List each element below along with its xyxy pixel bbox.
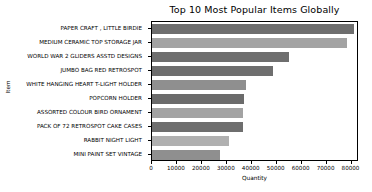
bar — [152, 122, 243, 133]
x-axis-tick-label: 50000 — [267, 165, 285, 171]
y-axis-tick-label: PACK OF 72 RETROSPOT CAKE CASES — [37, 119, 142, 133]
y-axis-tick-label: WHITE HANGING HEART T-LIGHT HOLDER — [26, 77, 142, 91]
x-axis-tick-label: 20000 — [192, 165, 210, 171]
x-axis-ticks: 0100002000030000400005000060000700008000… — [151, 161, 358, 187]
x-axis-tick-label: 60000 — [292, 165, 310, 171]
x-axis-tick-mark — [326, 161, 327, 164]
y-axis-tick-label: PAPER CRAFT , LITTLE BIRDIE — [61, 21, 142, 35]
x-axis-tick-label: 70000 — [317, 165, 335, 171]
y-axis-tick-label: RABBIT NIGHT LIGHT — [84, 133, 142, 147]
chart-figure: Top 10 Most Popular Items Globally Item … — [0, 0, 372, 192]
bar — [152, 38, 347, 49]
y-axis-tick-labels: PAPER CRAFT , LITTLE BIRDIEMEDIUM CERAMI… — [0, 21, 147, 161]
x-axis-tick-mark — [176, 161, 177, 164]
x-axis-tick-mark — [276, 161, 277, 164]
y-axis-tick-label: MINI PAINT SET VINTAGE — [74, 147, 142, 161]
x-axis-tick-label: 40000 — [242, 165, 260, 171]
y-axis-tick-label: POPCORN HOLDER — [89, 91, 142, 105]
y-axis-tick-label: ASSORTED COLOUR BIRD ORNAMENT — [37, 105, 142, 119]
bar — [152, 108, 243, 119]
x-axis-tick-label: 30000 — [217, 165, 235, 171]
bar — [152, 94, 244, 105]
bar — [152, 66, 273, 77]
x-axis-tick-mark — [201, 161, 202, 164]
x-axis-tick-mark — [251, 161, 252, 164]
bar — [152, 150, 220, 161]
y-axis-tick-label: JUMBO BAG RED RETROSPOT — [60, 63, 142, 77]
x-axis-tick-mark — [226, 161, 227, 164]
y-axis-tick-label: MEDIUM CERAMIC TOP STORAGE JAR — [39, 35, 142, 49]
x-axis-tick-mark — [301, 161, 302, 164]
bar — [152, 52, 289, 63]
bar — [152, 80, 246, 91]
x-axis-tick-mark — [351, 161, 352, 164]
x-axis-tick-label: 0 — [149, 165, 153, 171]
y-axis-tick-label: WORLD WAR 2 GLIDERS ASSTD DESIGNS — [27, 49, 142, 63]
chart-title: Top 10 Most Popular Items Globally — [151, 4, 358, 15]
bar-series — [152, 22, 357, 160]
plot-area — [151, 21, 358, 161]
x-axis-tick-label: 10000 — [167, 165, 185, 171]
bar — [152, 24, 354, 35]
bar — [152, 136, 229, 147]
x-axis-label: Quantity — [151, 175, 358, 181]
x-axis-tick-mark — [151, 161, 152, 164]
x-axis-tick-label: 80000 — [342, 165, 360, 171]
